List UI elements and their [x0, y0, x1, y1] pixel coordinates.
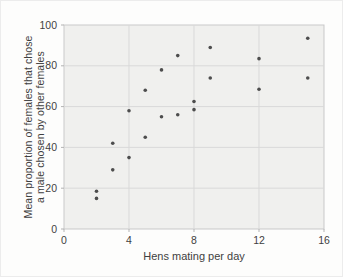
- data-point: [257, 57, 261, 61]
- data-point: [95, 197, 99, 201]
- data-point: [160, 115, 164, 119]
- data-point: [208, 46, 212, 50]
- x-tick-label: 12: [253, 234, 265, 246]
- x-tick-label: 16: [318, 234, 330, 246]
- data-point: [257, 87, 261, 91]
- y-tick-label: 20: [45, 182, 57, 194]
- data-point: [127, 156, 131, 160]
- data-point: [176, 113, 180, 117]
- data-point: [176, 54, 180, 58]
- data-point: [192, 108, 196, 112]
- y-tick-label: 40: [45, 141, 57, 153]
- data-point: [192, 100, 196, 104]
- data-point: [208, 76, 212, 80]
- y-tick-label: 0: [51, 223, 57, 235]
- y-tick-label: 80: [45, 59, 57, 71]
- data-point: [127, 109, 131, 113]
- x-tick-label: 4: [126, 234, 132, 246]
- data-point: [111, 168, 115, 172]
- x-axis-label: Hens mating per day: [64, 250, 324, 262]
- data-point: [95, 189, 99, 193]
- x-tick-label: 8: [191, 234, 197, 246]
- data-point: [306, 76, 310, 80]
- y-tick-label: 60: [45, 100, 57, 112]
- data-point: [306, 36, 310, 40]
- data-point: [111, 142, 115, 146]
- data-point: [143, 135, 147, 139]
- data-point: [143, 88, 147, 92]
- plot-canvas: 0481216020406080100: [1, 1, 343, 277]
- scatter-chart-figure: Mean proportion of females that chose a …: [0, 0, 343, 277]
- x-tick-label: 0: [61, 234, 67, 246]
- y-tick-label: 100: [39, 19, 57, 31]
- data-point: [160, 68, 164, 72]
